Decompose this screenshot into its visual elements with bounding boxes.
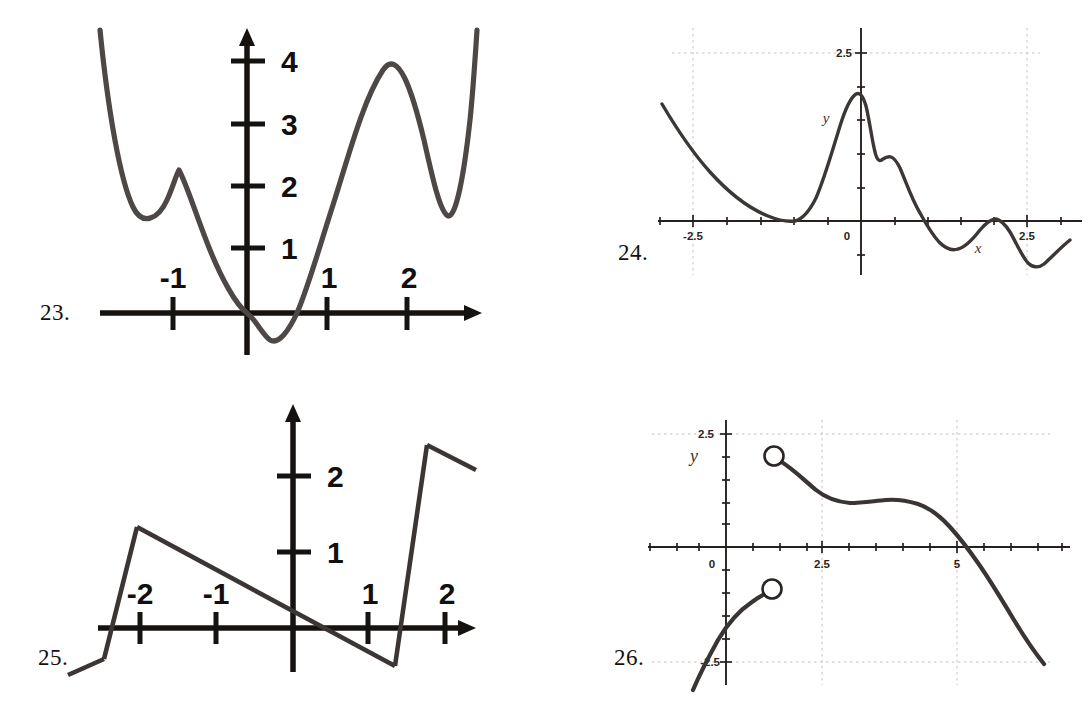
graph-23-ytick-label-1: 1 (281, 232, 298, 265)
graph-24-gridlines (672, 28, 1040, 275)
graph-24-ytick-label-25: 2.5 (836, 47, 853, 59)
graph-24-xtick-label-0: 0 (844, 230, 850, 242)
graph-26-xtick-label-0: 0 (709, 558, 715, 570)
graph-24-y-axis-label: y (821, 110, 830, 126)
graph-23-ytick-label-2: 2 (281, 170, 298, 203)
graph-23-ytick-label-3: 3 (281, 108, 298, 141)
graph-23-xtick-label-neg1: -1 (160, 261, 187, 294)
graph-25-plot: -2 -1 1 2 1 2 (0, 390, 520, 707)
figure-26-number: 26. (614, 645, 644, 671)
graph-25-x-axis (98, 620, 476, 636)
x-axis-arrowhead (464, 305, 482, 321)
graph-26-xtick-label-25: 2.5 (814, 558, 831, 570)
graph-24-curve (662, 94, 1070, 267)
figure-26: 26. (600, 400, 1090, 700)
graph-26-gridlines (652, 420, 1050, 685)
figure-23-number: 23. (40, 300, 70, 326)
y-axis-arrowhead (285, 404, 301, 422)
graph-25-xtick-label-neg2: -2 (127, 577, 154, 610)
graph-24-xtick-label-25: 2.5 (1019, 230, 1036, 242)
graph-23-ytick-label-4: 4 (281, 45, 298, 78)
graph-25-segment-fall-1 (137, 527, 395, 666)
graph-25-segment-left-tail (68, 659, 104, 675)
graph-26-open-circle-lower (763, 580, 782, 599)
figure-24-number: 24. (618, 240, 648, 266)
graph-26-y-axis-label: y (688, 446, 698, 466)
graph-26-xtick-label-5: 5 (954, 558, 961, 570)
graph-24-x-axis-label: x (974, 240, 982, 256)
graph-23-x-axis (100, 305, 482, 321)
graph-25-xtick-label-2: 2 (439, 577, 456, 610)
graph-25-y-axis (285, 404, 301, 672)
graph-23-xtick-label-1: 1 (321, 261, 338, 294)
graph-25-xtick-label-1: 1 (362, 577, 379, 610)
figure-25: 25. -2 -1 1 2 1 2 (0, 390, 520, 707)
graph-25-xtick-label-neg1: -1 (203, 577, 230, 610)
graph-25-ytick-label-1: 1 (327, 536, 344, 569)
graph-23-xtick-label-2: 2 (401, 261, 418, 294)
graph-26-open-circle-upper (765, 447, 784, 466)
graph-24-xtick-label-neg25: -2.5 (683, 230, 703, 242)
y-axis-arrowhead (239, 28, 255, 46)
graph-26-lower-branch (693, 591, 771, 690)
graph-23-plot: -1 1 2 1 2 3 4 (0, 0, 520, 355)
figure-23: 23. -1 1 2 1 2 3 4 (0, 0, 520, 355)
graph-25-ytick-label-2: 2 (327, 460, 344, 493)
graph-24-plot: -2.5 0 2.5 2.5 y x (600, 0, 1090, 300)
graph-25-segment-rise-2 (395, 445, 427, 666)
figure-24: 24. (600, 0, 1090, 300)
x-axis-arrowhead (458, 620, 476, 636)
figure-25-number: 25. (38, 645, 68, 671)
graph-26-plot: 2.5 -2.5 0 2.5 5 y (600, 400, 1090, 700)
graph-25-segment-fall-2 (427, 445, 476, 470)
graph-26-ytick-label-25: 2.5 (698, 428, 715, 440)
